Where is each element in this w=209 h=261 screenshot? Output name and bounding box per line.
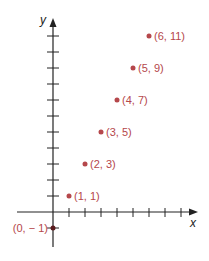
data-point-label: (3, 5) bbox=[106, 126, 132, 138]
x-axis-label: x bbox=[189, 216, 197, 230]
data-point bbox=[67, 194, 72, 199]
data-point bbox=[51, 226, 56, 231]
data-point-label: (4, 7) bbox=[122, 94, 148, 106]
data-point bbox=[115, 98, 120, 103]
data-point bbox=[131, 66, 136, 71]
data-point bbox=[147, 34, 152, 39]
y-axis-arrow-icon bbox=[50, 18, 57, 27]
scatter-chart: xy(0, − 1)(1, 1)(2, 3)(3, 5)(4, 7)(5, 9)… bbox=[0, 0, 209, 261]
data-point-label: (6, 11) bbox=[154, 30, 185, 42]
data-point bbox=[99, 130, 104, 135]
data-point bbox=[83, 162, 88, 167]
x-axis-arrow-icon bbox=[189, 209, 198, 216]
data-point-label: (0, − 1) bbox=[13, 222, 48, 234]
data-point-label: (2, 3) bbox=[90, 158, 116, 170]
y-axis-label: y bbox=[39, 13, 47, 27]
data-point-label: (5, 9) bbox=[138, 62, 164, 74]
chart-canvas: xy(0, − 1)(1, 1)(2, 3)(3, 5)(4, 7)(5, 9)… bbox=[0, 0, 209, 261]
data-point-label: (1, 1) bbox=[74, 190, 100, 202]
